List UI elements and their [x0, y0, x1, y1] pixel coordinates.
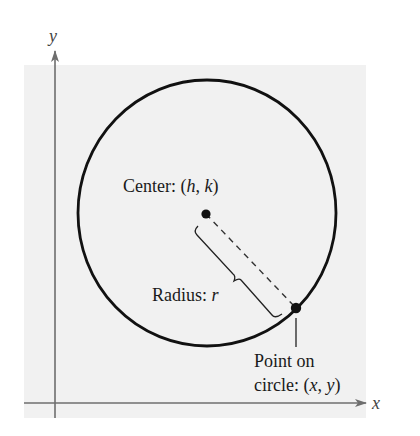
center-point: [201, 209, 210, 218]
x-axis-label: x: [371, 393, 380, 413]
y-axis-label: y: [47, 26, 57, 46]
point-label-line2: circle: (x, y): [254, 375, 340, 396]
circle-diagram: x y Center: (h, k) Radius: r Point on ci…: [0, 0, 420, 436]
center-label: Center: (h, k): [123, 176, 218, 197]
point-label-line1: Point on: [254, 351, 315, 371]
point-on-circle: [291, 303, 301, 313]
plot-background: [24, 65, 366, 418]
radius-label: Radius: r: [152, 285, 220, 305]
